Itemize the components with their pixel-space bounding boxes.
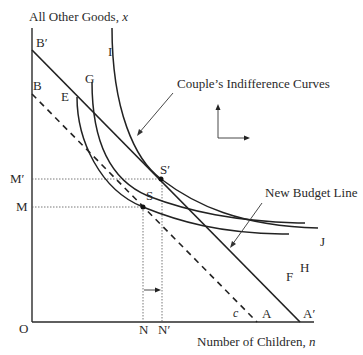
direction-up-head: [216, 104, 221, 110]
pointer-new-budget: [232, 203, 262, 245]
label-b: B: [33, 78, 42, 93]
annotation-new-budget-line: New Budget Line: [265, 185, 358, 200]
label-n-prime: N′: [158, 322, 170, 337]
direction-right-head: [244, 136, 250, 141]
indifference-curve-ef: [77, 97, 282, 234]
label-n: N: [139, 322, 149, 337]
label-g: G: [85, 71, 94, 86]
pointer-new-budget-head: [230, 241, 236, 248]
label-e: E: [61, 89, 69, 104]
point-s: [141, 205, 146, 210]
label-c: c: [233, 306, 239, 320]
indifference-curve-gh: [92, 82, 298, 223]
label-s: S: [146, 188, 153, 203]
annotation-indifference-curves: Couple’s Indifference Curves: [177, 76, 330, 91]
pointer-indifference: [139, 93, 173, 133]
label-m: M: [16, 199, 28, 214]
label-h: H: [300, 260, 309, 275]
shift-arrowhead: [155, 288, 161, 293]
point-s-prime: [159, 177, 164, 182]
label-f: F: [286, 269, 293, 284]
label-a-prime: A′: [303, 306, 315, 321]
y-axis-title: All Other Goods, x: [29, 9, 128, 24]
label-i: I: [108, 44, 112, 59]
pointer-indifference-head: [137, 129, 143, 136]
origin-label: O: [19, 321, 28, 336]
label-j: J: [320, 234, 325, 249]
label-s-prime: S′: [160, 162, 170, 177]
label-m-prime: M′: [10, 171, 25, 186]
label-a: A: [262, 306, 272, 321]
indifference-curve-diagram: All Other Goods, x Number of Children, n…: [0, 0, 363, 355]
label-b-prime: B′: [36, 35, 48, 50]
x-axis-title: Number of Children, n: [197, 334, 315, 349]
